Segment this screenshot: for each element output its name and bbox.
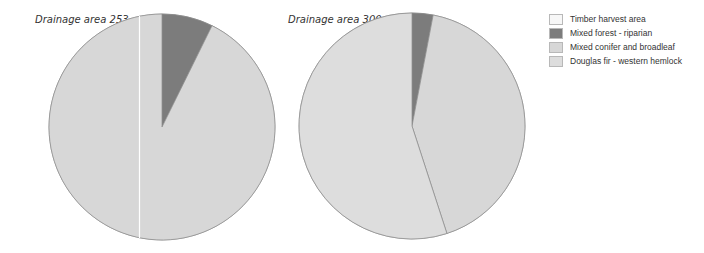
- legend-item-timber-harvest: Timber harvest area: [549, 12, 682, 26]
- legend-label: Timber harvest area: [570, 14, 646, 24]
- legend-item-douglas-fir-western-hemlock: Douglas fir - western hemlock: [549, 54, 682, 68]
- legend-label: Douglas fir - western hemlock: [570, 56, 682, 66]
- legend-item-mixed-conifer-broadleaf: Mixed conifer and broadleaf: [549, 40, 682, 54]
- legend-swatch: [549, 28, 563, 39]
- legend-swatch: [549, 56, 563, 67]
- pie-drainage-area-300: [299, 13, 525, 239]
- pie-drainage-area-253: [49, 14, 275, 240]
- pie-title-253: Drainage area 253: [35, 14, 129, 25]
- legend-swatch: [549, 14, 563, 25]
- legend-label: Mixed forest - riparian: [570, 28, 652, 38]
- pie-slice-mixed-conifer-and-broadleaf: [49, 14, 275, 240]
- legend-item-mixed-forest-riparian: Mixed forest - riparian: [549, 26, 682, 40]
- legend-swatch: [549, 42, 563, 53]
- legend: Timber harvest area Mixed forest - ripar…: [549, 12, 682, 68]
- legend-label: Mixed conifer and broadleaf: [570, 42, 675, 52]
